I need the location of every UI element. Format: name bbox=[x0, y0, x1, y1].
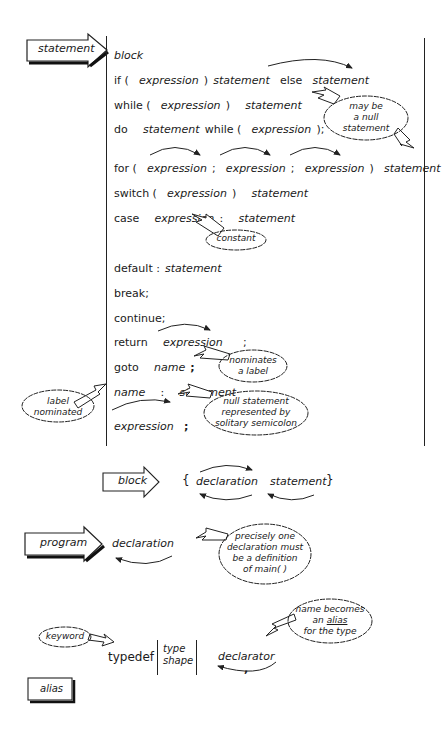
row-expression-stmt: expression ; bbox=[114, 415, 188, 434]
program-decl-loop-arrow bbox=[116, 556, 172, 564]
row-return: return expression ; bbox=[114, 331, 247, 350]
row-break: break; bbox=[114, 282, 149, 301]
block-label: block bbox=[118, 474, 147, 487]
block-decl-loop-arrow bbox=[200, 494, 252, 500]
row-continue: continue; bbox=[114, 307, 166, 326]
note-alias: name becomes an alias for the type bbox=[292, 604, 368, 637]
note-label-nominated: label nominated bbox=[24, 396, 92, 418]
program-label: program bbox=[40, 536, 87, 549]
row-for: for ( expression ; expression ; expressi… bbox=[114, 157, 441, 176]
block-decl-forward-arrow bbox=[200, 465, 252, 472]
block-declaration: declaration bbox=[196, 475, 258, 488]
statement-label: statement bbox=[38, 42, 95, 55]
row-if: if ( expression ) statement else stateme… bbox=[114, 69, 369, 88]
row-default: default : statement bbox=[114, 257, 222, 276]
row-while: while ( expression ) statement bbox=[114, 94, 302, 113]
note-constant: constant bbox=[208, 233, 264, 244]
row-goto: goto name ; bbox=[114, 356, 195, 375]
note-nominates-label: nominates a label bbox=[222, 355, 284, 377]
note-null-semicolon: null statement represented by solitary s… bbox=[208, 396, 304, 429]
typedef-keyword: typedef bbox=[108, 650, 154, 664]
note-keyword: keyword bbox=[42, 631, 88, 642]
note-null-statement: may be a null statement bbox=[328, 101, 404, 134]
else-bypass-arrow bbox=[268, 59, 352, 68]
open-brace: { bbox=[182, 473, 190, 487]
block-stmt-loop-arrow bbox=[268, 494, 314, 500]
type-bar-right bbox=[196, 640, 197, 675]
program-declaration: declaration bbox=[112, 537, 174, 550]
type-shape: type shape bbox=[163, 643, 193, 667]
row-switch: switch ( expression ) statement bbox=[114, 182, 308, 201]
note-main-definition: precisely one declaration must be a defi… bbox=[222, 531, 308, 575]
expr-stmt-bypass-arrow bbox=[112, 400, 170, 410]
close-brace: } bbox=[326, 473, 334, 487]
for-init-bypass-arrow bbox=[150, 148, 200, 156]
row-block: block bbox=[114, 44, 143, 63]
statement-right-bar bbox=[424, 38, 425, 446]
row-do: do statement while ( expression ); bbox=[114, 118, 324, 137]
for-incr-bypass-arrow bbox=[290, 148, 340, 156]
declarator-separator: , bbox=[244, 662, 248, 675]
type-bar-left bbox=[157, 640, 158, 675]
return-bypass-arrow bbox=[158, 324, 210, 331]
block-statement: statement bbox=[270, 475, 327, 488]
statement-left-bar bbox=[106, 36, 107, 446]
alias-label: alias bbox=[40, 683, 63, 694]
for-cond-bypass-arrow bbox=[220, 148, 270, 156]
keyword-pointer-icon bbox=[88, 634, 114, 646]
row-case: case expression : statement bbox=[114, 207, 295, 226]
